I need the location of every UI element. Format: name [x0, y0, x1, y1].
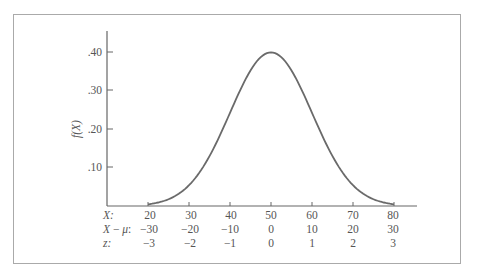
- z-value: 3: [390, 237, 396, 249]
- x-value: 50: [265, 209, 277, 221]
- z-value: 1: [309, 237, 315, 249]
- x-value: 20: [144, 209, 156, 221]
- normal-distribution-chart: .40 .30 .20 .10 f(X) X: X − μ: z: 20 30 …: [0, 0, 492, 277]
- x-value: 70: [347, 209, 359, 221]
- x-minus-mu-value: 30: [387, 223, 399, 235]
- x-minus-mu-value: −30: [140, 223, 158, 235]
- row-label-z: z:: [102, 237, 111, 249]
- x-minus-mu-value: −20: [181, 223, 199, 235]
- y-tick-labels: .40 .30 .20 .10: [88, 46, 103, 173]
- y-axis-label: f(X): [70, 120, 83, 138]
- z-row: −3 −2 −1 0 1 2 3: [143, 237, 396, 249]
- x-value: 30: [185, 209, 197, 221]
- row-label-x: X:: [102, 209, 114, 221]
- x-minus-mu-value: 0: [268, 223, 274, 235]
- x-minus-mu-value: −10: [221, 223, 239, 235]
- normal-curve: [148, 52, 394, 204]
- ytick-40: .40: [88, 46, 103, 58]
- row-label-x-minus-mu: X − μ:: [102, 223, 131, 236]
- z-value: −1: [224, 237, 236, 249]
- x-minus-mu-value: 20: [347, 223, 359, 235]
- x-minus-mu-row: −30 −20 −10 0 10 20 30: [140, 223, 399, 235]
- x-minus-mu-value: 10: [306, 223, 318, 235]
- y-ticks: [107, 52, 113, 167]
- ytick-10: .10: [88, 161, 103, 173]
- z-value: −3: [143, 237, 155, 249]
- z-value: 2: [350, 237, 356, 249]
- x-values-row: 20 30 40 50 60 70 80: [144, 209, 399, 221]
- z-value: 0: [268, 237, 274, 249]
- x-value: 80: [387, 209, 399, 221]
- x-value: 60: [306, 209, 318, 221]
- ytick-30: .30: [88, 84, 103, 96]
- ytick-20: .20: [88, 123, 103, 135]
- x-value: 40: [225, 209, 237, 221]
- z-value: −2: [184, 237, 196, 249]
